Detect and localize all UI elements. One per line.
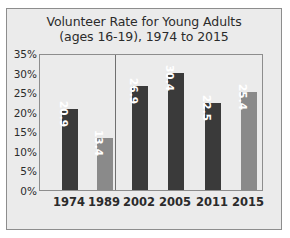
bar-value-2005: 30.4 [164, 65, 176, 91]
chart-title-line-2: (ages 16-19), 1974 to 2015 [7, 29, 281, 44]
chart-figure: Volunteer Rate for Young Adults (ages 16… [6, 8, 282, 230]
y-tick-10: 10% [7, 146, 37, 158]
bar-2015: 25.4 [241, 92, 257, 190]
bar-2005: 30.4 [168, 73, 184, 190]
y-tick-5: 5% [7, 165, 37, 177]
x-tick-2005: 2005 [155, 195, 195, 209]
y-tick-25: 25% [7, 87, 37, 99]
bar-value-1974: 20.9 [58, 101, 70, 127]
group-divider-line [115, 55, 116, 190]
bar-2002: 26.9 [132, 86, 148, 190]
bar-value-2011: 22.5 [201, 95, 213, 121]
x-tick-2011: 2011 [192, 195, 232, 209]
plot-area: 20.9 13.4 26.9 30.4 22.5 25.4 [39, 54, 263, 191]
chart-title-line-1: Volunteer Rate for Young Adults [7, 14, 281, 29]
bar-value-2015: 25.4 [237, 84, 249, 110]
bar-value-1989: 13.4 [93, 130, 105, 156]
y-axis: 0% 5% 10% 15% 20% 25% 30% 35% [7, 54, 37, 191]
x-tick-1989: 1989 [84, 195, 124, 209]
y-tick-35: 35% [7, 48, 37, 60]
bar-1974: 20.9 [62, 109, 78, 190]
y-tick-0: 0% [7, 185, 37, 197]
x-tick-1974: 1974 [49, 195, 89, 209]
x-tick-2015: 2015 [228, 195, 268, 209]
bar-1989: 13.4 [97, 138, 113, 190]
y-tick-20: 20% [7, 107, 37, 119]
y-tick-15: 15% [7, 126, 37, 138]
x-axis: 1974 1989 2002 2005 2011 2015 [39, 195, 263, 213]
y-tick-30: 30% [7, 68, 37, 80]
bar-2011: 22.5 [205, 103, 221, 190]
x-tick-2002: 2002 [119, 195, 159, 209]
chart-title: Volunteer Rate for Young Adults (ages 16… [7, 14, 281, 44]
bar-value-2002: 26.9 [128, 78, 140, 104]
